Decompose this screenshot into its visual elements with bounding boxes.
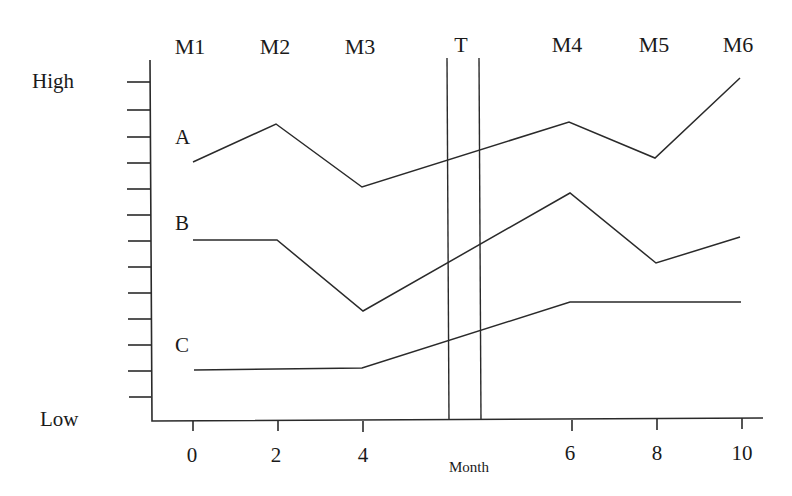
line-chart: M1 M2 M3 T M4 M5 M6 High Low 0 2 [0,0,792,496]
svg-text:8: 8 [652,441,663,465]
x-axis-label: Month [449,459,490,475]
marker-m2: M2 [260,34,291,59]
series-b-line [193,193,740,311]
svg-text:10: 10 [732,441,753,465]
y-label-low: Low [40,407,79,431]
series-b-label: B [175,211,189,235]
top-marker-labels: M1 M2 M3 T M4 M5 M6 [175,32,754,59]
marker-m5: M5 [639,32,670,57]
marker-m1: M1 [175,34,206,59]
series-c-line [194,302,741,370]
y-ticks [127,82,151,397]
marker-m6: M6 [723,32,754,57]
svg-text:2: 2 [271,443,282,467]
series-a-label: A [175,125,191,149]
series-a-line [193,78,740,187]
y-label-high: High [32,69,75,93]
svg-text:4: 4 [358,443,369,467]
marker-m4: M4 [552,32,583,57]
series-c-label: C [175,333,189,357]
marker-m3: M3 [345,34,376,59]
treatment-line-left [447,58,449,420]
marker-t: T [454,32,468,57]
svg-text:6: 6 [565,441,576,465]
treatment-line-right [479,58,481,420]
svg-text:0: 0 [187,443,198,467]
